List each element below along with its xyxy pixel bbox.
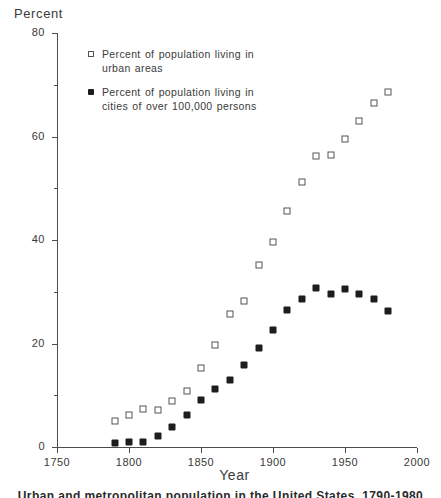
- y-tick: 60: [52, 137, 57, 138]
- data-point: [111, 439, 118, 446]
- legend-item-label: Percent of population living in cities o…: [102, 86, 257, 113]
- legend-item: Percent of population living in urban ar…: [88, 48, 338, 75]
- data-point: [370, 100, 377, 107]
- y-tick: 80: [52, 33, 57, 34]
- data-point: [140, 406, 147, 413]
- y-tick-label: 40: [32, 233, 45, 245]
- y-axis-line: [57, 33, 58, 448]
- y-tick-label: 0: [38, 440, 45, 452]
- data-point: [198, 396, 205, 403]
- data-point: [226, 376, 233, 383]
- data-point: [298, 295, 305, 302]
- data-point: [327, 290, 334, 297]
- filled-diamond-icon: [88, 89, 102, 95]
- y-tick: 40: [52, 240, 57, 241]
- data-point: [255, 262, 262, 269]
- data-point: [342, 135, 349, 142]
- chart-page: Percent 020406080 1750180018501900195020…: [0, 0, 441, 498]
- data-point: [154, 432, 161, 439]
- y-minor-tick: [54, 85, 57, 86]
- data-point: [313, 153, 320, 160]
- data-point: [313, 284, 320, 291]
- data-point: [183, 388, 190, 395]
- chart-legend: Percent of population living in urban ar…: [88, 48, 338, 124]
- legend-line-1: Percent of population living in: [102, 48, 254, 60]
- y-tick: 20: [52, 344, 57, 345]
- x-tick: [273, 448, 274, 453]
- data-point: [212, 386, 219, 393]
- legend-line-1: Percent of population living in: [102, 86, 254, 98]
- x-tick: [57, 448, 58, 453]
- x-axis-line: [57, 447, 417, 448]
- data-point: [111, 417, 118, 424]
- data-point: [126, 439, 133, 446]
- data-point: [342, 285, 349, 292]
- y-minor-tick: [54, 395, 57, 396]
- legend-item-label: Percent of population living in urban ar…: [102, 48, 254, 75]
- y-tick-label: 20: [32, 337, 45, 349]
- y-tick-label: 80: [32, 26, 45, 38]
- x-tick: [129, 448, 130, 453]
- legend-item: Percent of population living in cities o…: [88, 86, 338, 113]
- y-minor-tick: [54, 292, 57, 293]
- x-tick: [345, 448, 346, 453]
- data-point: [298, 179, 305, 186]
- data-point: [226, 311, 233, 318]
- x-axis-title-text: Year: [219, 467, 250, 483]
- data-point: [370, 295, 377, 302]
- y-axis-title: Percent: [14, 6, 63, 21]
- data-point: [169, 398, 176, 405]
- data-point: [356, 117, 363, 124]
- data-point: [183, 412, 190, 419]
- legend-line-2: cities of over 100,000 persons: [102, 100, 257, 112]
- data-point: [270, 239, 277, 246]
- data-point: [284, 207, 291, 214]
- data-point: [385, 307, 392, 314]
- data-point: [140, 438, 147, 445]
- data-point: [241, 362, 248, 369]
- y-tick-label: 60: [32, 130, 45, 142]
- x-tick: [417, 448, 418, 453]
- x-axis-title: Year: [0, 467, 441, 483]
- data-point: [154, 406, 161, 413]
- y-minor-tick: [54, 188, 57, 189]
- data-point: [284, 307, 291, 314]
- data-point: [255, 344, 262, 351]
- data-point: [198, 364, 205, 371]
- data-point: [356, 291, 363, 298]
- x-tick: [201, 448, 202, 453]
- legend-line-2: urban areas: [102, 62, 163, 74]
- data-point: [212, 341, 219, 348]
- data-point: [169, 424, 176, 431]
- data-point: [241, 298, 248, 305]
- data-point: [385, 88, 392, 95]
- data-point: [270, 327, 277, 334]
- figure-caption: Urban and metropolitan population in the…: [0, 489, 441, 498]
- open-square-icon: [88, 51, 102, 57]
- data-point: [126, 412, 133, 419]
- data-point: [327, 151, 334, 158]
